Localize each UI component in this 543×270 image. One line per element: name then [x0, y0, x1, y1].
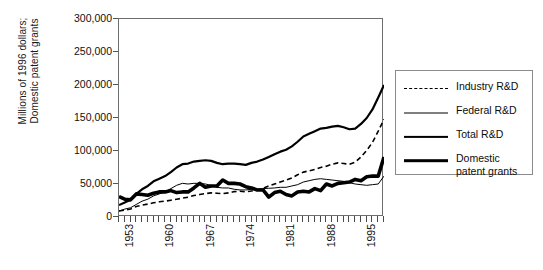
- y-tick-mark: [113, 18, 118, 19]
- legend-item: Domestic patent grants: [404, 152, 528, 174]
- y-tick-mark: [113, 150, 118, 151]
- x-tick-label: 1953: [123, 224, 135, 268]
- x-tick-mark: [187, 216, 188, 222]
- legend-label: Federal R&D: [456, 104, 517, 117]
- y-axis-tick-labels: 050,000100,000150,000200,000250,000300,0…: [34, 12, 112, 224]
- x-tick-mark: [279, 216, 280, 222]
- x-tick-mark: [343, 216, 344, 222]
- x-tick-mark: [354, 216, 355, 222]
- plot-lines: [119, 19, 384, 217]
- chart-legend: Industry R&DFederal R&DTotal R&DDomestic…: [395, 70, 533, 175]
- legend-item: Total R&D: [404, 128, 528, 150]
- x-tick-mark: [314, 216, 315, 222]
- x-tick-label: 1995: [365, 224, 377, 268]
- x-tick-mark: [216, 216, 217, 222]
- x-tick-mark: [147, 216, 148, 222]
- x-tick-mark: [308, 216, 309, 222]
- x-tick-mark: [170, 216, 171, 222]
- series-line: [119, 119, 384, 211]
- x-tick-label: 1981: [284, 224, 296, 268]
- y-tick-mark: [113, 216, 118, 217]
- y-tick-label: 100,000: [34, 145, 112, 156]
- y-tick-mark: [113, 183, 118, 184]
- x-tick-mark: [193, 216, 194, 222]
- x-tick-mark: [153, 216, 154, 222]
- x-tick-mark: [227, 216, 228, 222]
- x-tick-mark: [377, 216, 378, 222]
- x-tick-label: 1974: [244, 224, 256, 268]
- x-tick-mark: [268, 216, 269, 222]
- x-tick-mark: [176, 216, 177, 222]
- legend-label: Industry R&D: [456, 80, 518, 93]
- x-tick-mark: [348, 216, 349, 222]
- x-axis-ticks: [118, 216, 383, 222]
- y-tick-label: 200,000: [34, 79, 112, 90]
- y-tick-label: 300,000: [34, 13, 112, 24]
- y-tick-label: 0: [34, 211, 112, 222]
- x-tick-mark: [325, 216, 326, 222]
- legend-label: Domestic patent grants: [456, 152, 517, 177]
- x-tick-mark: [204, 216, 205, 222]
- y-tick-label: 50,000: [34, 178, 112, 189]
- x-tick-mark: [297, 216, 298, 222]
- x-tick-mark: [320, 216, 321, 222]
- legend-swatch-thin: [404, 107, 448, 119]
- chart-figure: Millions of 1996 dollars; Domestic paten…: [0, 0, 543, 270]
- x-tick-label: 1988: [325, 224, 337, 268]
- x-tick-mark: [141, 216, 142, 222]
- x-tick-mark: [274, 216, 275, 222]
- x-tick-mark: [199, 216, 200, 222]
- x-tick-mark: [222, 216, 223, 222]
- x-tick-mark: [118, 216, 119, 222]
- x-tick-mark: [285, 216, 286, 222]
- x-tick-mark: [158, 216, 159, 222]
- x-tick-mark: [135, 216, 136, 222]
- x-tick-mark: [291, 216, 292, 222]
- x-tick-mark: [210, 216, 211, 222]
- y-tick-label: 250,000: [34, 46, 112, 57]
- legend-swatch-thick: [404, 155, 448, 167]
- x-tick-mark: [383, 216, 384, 222]
- y-tick-label: 150,000: [34, 112, 112, 123]
- x-tick-mark: [233, 216, 234, 222]
- x-axis-tick-labels: 1953196019671974198119881995: [118, 224, 398, 268]
- x-tick-mark: [130, 216, 131, 222]
- y-tick-mark: [113, 84, 118, 85]
- x-tick-mark: [366, 216, 367, 222]
- x-tick-mark: [164, 216, 165, 222]
- y-tick-mark: [113, 51, 118, 52]
- x-tick-label: 1967: [204, 224, 216, 268]
- legend-item: Federal R&D: [404, 104, 528, 126]
- x-tick-mark: [124, 216, 125, 222]
- x-tick-mark: [262, 216, 263, 222]
- x-tick-mark: [239, 216, 240, 222]
- plot-area: [118, 18, 383, 216]
- legend-label: Total R&D: [456, 128, 503, 141]
- y-tick-mark: [113, 117, 118, 118]
- legend-item: Industry R&D: [404, 80, 528, 102]
- x-tick-label: 1960: [163, 224, 175, 268]
- x-tick-mark: [371, 216, 372, 222]
- x-tick-mark: [302, 216, 303, 222]
- x-tick-mark: [256, 216, 257, 222]
- legend-swatch-dashed: [404, 83, 448, 95]
- x-tick-mark: [360, 216, 361, 222]
- legend-swatch-medium: [404, 131, 448, 143]
- x-tick-mark: [337, 216, 338, 222]
- x-tick-mark: [245, 216, 246, 222]
- x-tick-mark: [331, 216, 332, 222]
- x-tick-mark: [181, 216, 182, 222]
- x-tick-mark: [251, 216, 252, 222]
